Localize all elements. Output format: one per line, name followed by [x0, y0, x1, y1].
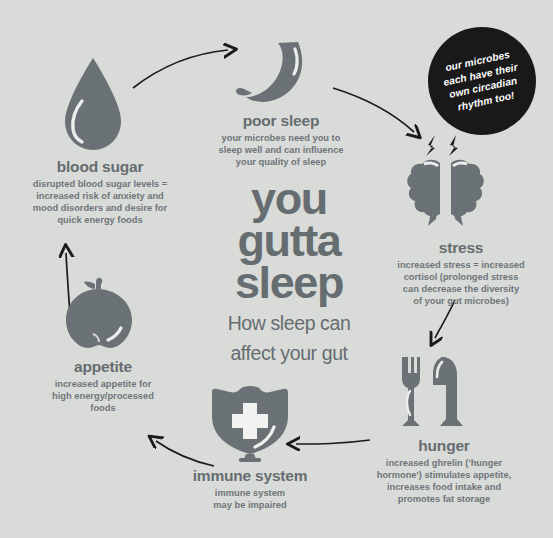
- arrow-immune-to-appetite: [156, 441, 214, 466]
- node-appetite: appetite increased appetite for high ene…: [22, 358, 184, 414]
- shield-cross-icon: [208, 386, 292, 462]
- node-stress-desc: increased stress = increased cortisol (p…: [369, 259, 553, 308]
- node-hunger-title: hunger: [345, 437, 543, 454]
- crescent-moon-icon: [234, 40, 308, 110]
- title-line-2: gutta: [196, 220, 382, 262]
- node-blood-sugar-desc: disrupted blood sugar levels = increased…: [4, 178, 196, 227]
- node-poor-sleep: poor sleep your microbes need you to sle…: [185, 112, 377, 168]
- apple-icon: [62, 276, 136, 352]
- page-title: you gutta sleep How sleep can affect you…: [196, 178, 382, 364]
- node-poor-sleep-title: poor sleep: [185, 112, 377, 129]
- node-immune-system: immune system immune system may be impai…: [154, 467, 346, 511]
- node-poor-sleep-desc: your microbes need you to sleep well and…: [185, 132, 377, 169]
- subtitle-line-1: How sleep can: [196, 313, 382, 334]
- infographic-canvas: our microbes each have their own circadi…: [0, 0, 553, 538]
- node-stress: stress increased stress = increased cort…: [369, 239, 553, 308]
- status-badge: our microbes each have their own circadi…: [428, 27, 536, 135]
- arrow-bloodsugar-to-poorsleep: [133, 50, 228, 88]
- node-appetite-title: appetite: [22, 358, 184, 375]
- blood-drop-icon: [62, 55, 124, 153]
- badge-text: our microbes each have their own circadi…: [439, 47, 524, 116]
- fork-and-knife-icon: [400, 355, 466, 433]
- node-blood-sugar-title: blood sugar: [4, 158, 196, 175]
- title-line-3: sleep: [196, 262, 382, 304]
- subtitle-line-2: affect your gut: [196, 343, 382, 364]
- node-hunger-desc: increased ghrelin ('hunger hormone') sti…: [345, 457, 543, 506]
- node-hunger: hunger increased ghrelin ('hunger hormon…: [345, 437, 543, 506]
- node-blood-sugar: blood sugar disrupted blood sugar levels…: [4, 158, 196, 227]
- node-immune-system-desc: immune system may be impaired: [154, 487, 346, 512]
- node-appetite-desc: increased appetite for high energy/proce…: [22, 378, 184, 415]
- title-line-1: you: [196, 178, 382, 220]
- split-brain-lightning-icon: [404, 131, 490, 231]
- node-stress-title: stress: [369, 239, 553, 256]
- node-immune-system-title: immune system: [154, 467, 346, 484]
